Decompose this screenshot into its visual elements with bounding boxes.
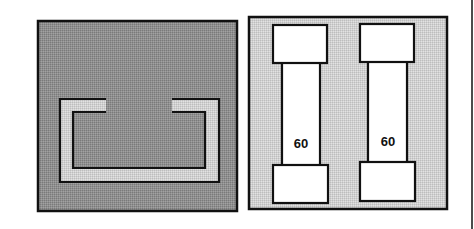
- fuse-2-top-cap: [360, 24, 414, 62]
- fuse-1-rating: 60: [294, 136, 308, 151]
- fuse-2-rating: 60: [381, 134, 395, 149]
- fuse-diagram: 60 60: [0, 0, 474, 229]
- fuse-1-top-cap: [273, 25, 327, 63]
- left-panel: [38, 21, 237, 211]
- fuse-2-bottom-cap: [360, 162, 415, 201]
- fuse-1-bottom-cap: [273, 165, 328, 203]
- fuse-1: 60: [273, 25, 328, 203]
- right-panel: 60 60: [249, 17, 447, 209]
- fuse-2: 60: [360, 24, 415, 201]
